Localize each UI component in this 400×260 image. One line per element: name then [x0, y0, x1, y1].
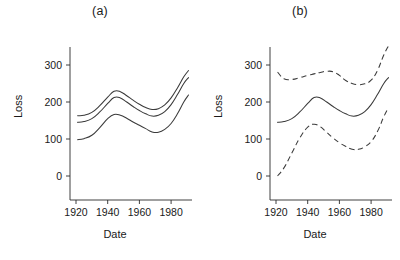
panel-a-y-tick-0: 0 — [56, 170, 62, 182]
panel-a-x-tick-1940: 1940 — [96, 206, 120, 218]
panel-a-x-tick-1960: 1960 — [128, 206, 152, 218]
panel-a-y-tick-200: 200 — [44, 96, 62, 108]
panel-a-y-tick-100: 100 — [44, 133, 62, 145]
panel-b: (b) Loss Date 300 200 100 0 1920 — [200, 0, 400, 260]
panel-b-x-ticks: 1920 1940 1960 1980 — [264, 200, 383, 218]
panel-b-y-ticks: 300 200 100 0 — [244, 59, 270, 182]
figure-panel-pair: (a) Loss Date 300 200 100 0 — [0, 0, 400, 260]
panel-a-y-ticks: 300 200 100 0 — [44, 59, 70, 182]
panel-b-x-tick-1960: 1960 — [328, 206, 352, 218]
panel-a-y-tick-300: 300 — [44, 59, 62, 71]
panel-b-y-tick-0: 0 — [256, 170, 262, 182]
panel-b-curves — [278, 46, 389, 176]
panel-a-x-tick-1980: 1980 — [159, 206, 183, 218]
panel-b-plot: 300 200 100 0 1920 1940 1960 1980 — [200, 0, 400, 260]
panel-b-y-tick-300: 300 — [244, 59, 262, 71]
panel-a-x-ticks: 1920 1940 1960 1980 — [64, 200, 183, 218]
panel-b-y-tick-200: 200 — [244, 96, 262, 108]
panel-a-plot: 300 200 100 0 1920 1940 1960 1980 — [0, 0, 200, 260]
panel-b-x-tick-1920: 1920 — [264, 206, 288, 218]
panel-b-y-tick-100: 100 — [244, 133, 262, 145]
curve-upper-confidence-bound — [78, 71, 189, 116]
curve-fitted-mean — [278, 78, 389, 123]
panel-b-x-tick-1980: 1980 — [359, 206, 383, 218]
panel-a: (a) Loss Date 300 200 100 0 — [0, 0, 200, 260]
panel-b-x-tick-1940: 1940 — [296, 206, 320, 218]
curve-lower-prediction-bound — [278, 108, 389, 176]
panel-a-curves — [78, 71, 189, 140]
curve-upper-prediction-bound — [278, 46, 389, 85]
panel-a-x-tick-1920: 1920 — [64, 206, 88, 218]
